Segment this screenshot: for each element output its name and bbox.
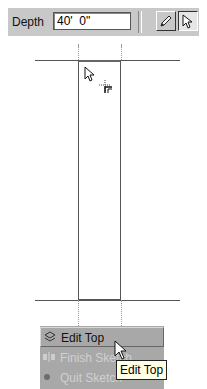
depth-label: Depth bbox=[12, 15, 44, 29]
arrow-select-icon bbox=[181, 14, 195, 30]
menu-item-edit-top[interactable]: Edit Top bbox=[40, 327, 164, 347]
depth-input[interactable] bbox=[53, 12, 131, 30]
sketch-rectangle[interactable] bbox=[78, 60, 121, 300]
finish-sketch-icon bbox=[42, 351, 56, 363]
crosshair-corner-icon bbox=[99, 80, 113, 94]
extension-line bbox=[121, 300, 122, 326]
toolbar-separator bbox=[138, 11, 142, 33]
quit-sketch-icon bbox=[42, 371, 56, 383]
extension-line bbox=[78, 300, 79, 326]
extension-line bbox=[121, 46, 122, 60]
extension-line bbox=[78, 46, 79, 60]
select-tool-button[interactable] bbox=[178, 11, 198, 31]
edit-top-icon bbox=[43, 331, 57, 343]
arrow-cursor-icon bbox=[114, 340, 130, 362]
menu-item-label: Edit Top bbox=[61, 331, 104, 345]
reference-line-bottom bbox=[35, 300, 180, 301]
tooltip: Edit Top bbox=[116, 360, 167, 380]
options-toolbar: Depth bbox=[8, 8, 199, 36]
draw-tool-button[interactable] bbox=[156, 11, 176, 31]
arrow-cursor-icon bbox=[84, 66, 98, 84]
pencil-icon bbox=[159, 14, 173, 28]
menu-item-label: Quit Sketch bbox=[60, 371, 122, 385]
